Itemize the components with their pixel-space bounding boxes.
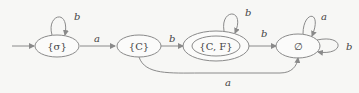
state-s3: ∅ [276, 34, 320, 58]
svg-text:a: a [94, 33, 100, 44]
svg-text:b: b [74, 11, 80, 22]
state-s1: {C} [117, 35, 161, 57]
svg-text:{C}: {C} [129, 41, 149, 52]
loop-s2-b [224, 14, 238, 33]
svg-text:b: b [245, 7, 251, 18]
svg-text:{σ}: {σ} [47, 41, 67, 52]
svg-text:a: a [225, 77, 231, 88]
state-s0: {σ} [35, 35, 79, 57]
automaton-diagram: {σ} b a {C} b {C, F} b b ∅ a b a [0, 0, 359, 93]
svg-text:b: b [169, 33, 175, 44]
loop-s3-a [303, 16, 315, 36]
state-s2: {C, F} [183, 31, 249, 61]
svg-text:a: a [321, 11, 327, 22]
loop-s0-b [51, 17, 66, 35]
svg-text:b: b [261, 28, 267, 39]
svg-text:∅: ∅ [294, 41, 303, 52]
svg-text:b: b [346, 41, 352, 52]
svg-text:{C, F}: {C, F} [199, 41, 232, 52]
